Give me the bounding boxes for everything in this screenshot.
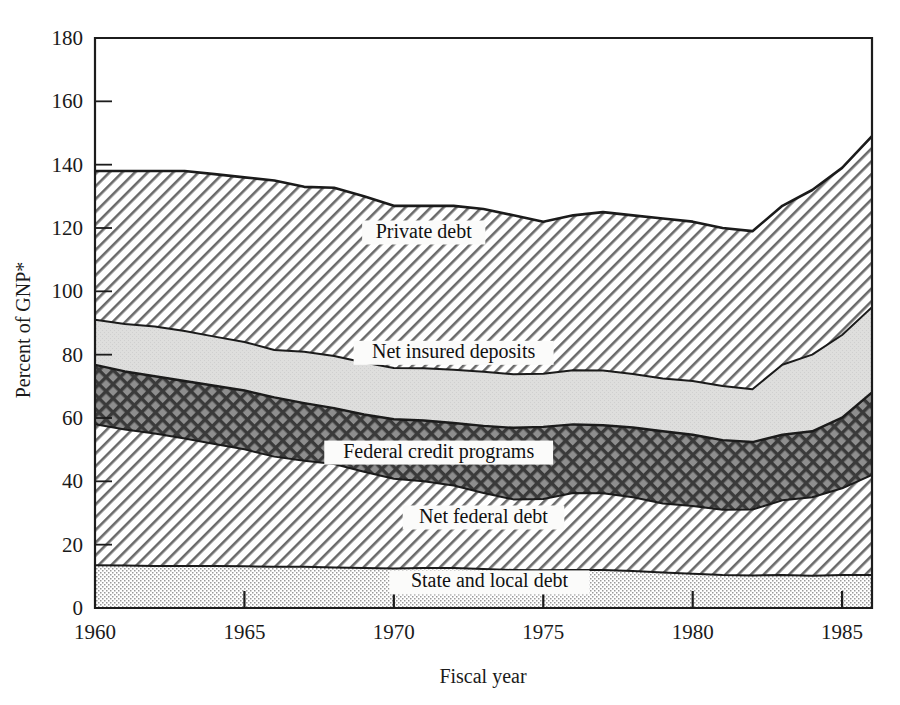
y-tick-label-20: 20 (62, 533, 83, 557)
stacked-area-chart: 0204060801001201401601801960196519701975… (0, 0, 900, 705)
series-label-net-insured-deposits: Net insured deposits (372, 340, 536, 363)
x-tick-label-1960: 1960 (74, 620, 116, 644)
y-tick-label-80: 80 (62, 343, 83, 367)
x-tick-label-1970: 1970 (373, 620, 415, 644)
x-axis-title: Fiscal year (439, 665, 527, 688)
y-tick-label-60: 60 (62, 406, 83, 430)
series-label-state-and-local-debt: State and local debt (411, 569, 569, 591)
x-tick-label-1975: 1975 (522, 620, 564, 644)
x-tick-label-1965: 1965 (223, 620, 265, 644)
series-label-net-federal-debt: Net federal debt (419, 505, 548, 527)
chart-container: 0204060801001201401601801960196519701975… (0, 0, 900, 705)
y-tick-label-140: 140 (52, 153, 84, 177)
y-tick-label-0: 0 (73, 596, 84, 620)
y-tick-label-180: 180 (52, 26, 84, 50)
series-label-federal-credit-programs: Federal credit programs (343, 440, 534, 463)
y-tick-label-160: 160 (52, 89, 84, 113)
y-tick-label-120: 120 (52, 216, 84, 240)
y-tick-label-40: 40 (62, 469, 83, 493)
x-tick-label-1980: 1980 (672, 620, 714, 644)
y-axis-title: Percent of GNP* (12, 262, 34, 399)
y-tick-label-100: 100 (52, 279, 84, 303)
x-tick-label-1985: 1985 (821, 620, 863, 644)
series-label-private-debt: Private debt (376, 220, 473, 242)
